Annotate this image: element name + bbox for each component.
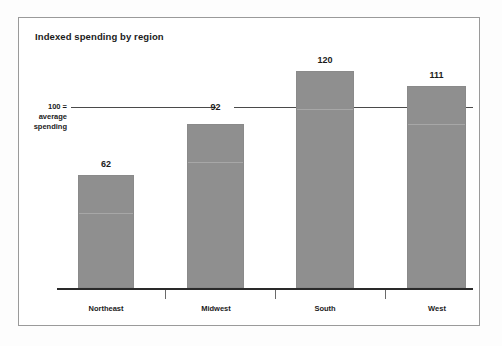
figure: Indexed spending by region 100 = average…	[0, 0, 502, 346]
bar-value-midwest: 92	[187, 102, 244, 112]
x-axis-line	[57, 288, 473, 290]
x-axis-tick-3	[385, 290, 386, 299]
x-axis-tick-1	[165, 290, 166, 299]
bar-value-northeast: 62	[78, 159, 134, 169]
category-label-northeast: Northeast	[68, 304, 144, 313]
x-axis-tick-2	[275, 290, 276, 299]
bar-northeast[interactable]	[78, 175, 134, 288]
reference-line-label: 100 = average spending	[21, 102, 67, 132]
plot-area: 100 = average spending 62 92 120 111 Nor…	[19, 18, 479, 325]
reference-line-label-value: 100 =	[21, 102, 67, 112]
chart-frame: Indexed spending by region 100 = average…	[18, 17, 480, 326]
bar-midwest[interactable]	[187, 124, 244, 288]
category-label-west: West	[399, 304, 475, 313]
reference-line-label-spending: spending	[21, 122, 67, 132]
bar-south[interactable]	[296, 71, 354, 288]
reference-line-label-average: average	[21, 112, 67, 122]
bar-west[interactable]	[407, 86, 466, 288]
bar-value-west: 111	[407, 70, 466, 80]
category-label-south: South	[287, 304, 363, 313]
category-label-midwest: Midwest	[178, 304, 254, 313]
bar-value-south: 120	[296, 55, 354, 65]
